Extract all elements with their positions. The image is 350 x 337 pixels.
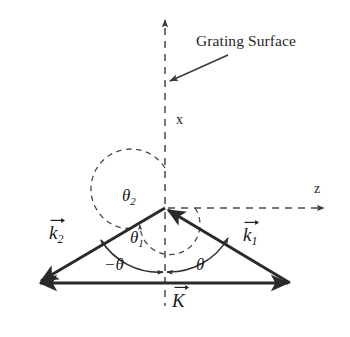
vector-k1-subscript: 1 bbox=[251, 234, 257, 248]
vector-k1 bbox=[168, 210, 290, 283]
axis-x-label: x bbox=[176, 113, 183, 127]
angle-theta1-label: θ1 bbox=[130, 228, 144, 248]
vector-k1-label: k1 bbox=[243, 224, 257, 246]
vector-K-symbol: K bbox=[172, 290, 185, 311]
axis-z-label: z bbox=[314, 182, 320, 196]
angle-arc-theta1 bbox=[140, 208, 200, 255]
vector-k2-label: k2 bbox=[49, 222, 63, 244]
angle-theta-positive-label: θ bbox=[196, 255, 204, 275]
figure-canvas bbox=[0, 0, 350, 337]
vector-k2-subscript: 2 bbox=[57, 232, 63, 246]
grating-surface-pointer-arrow bbox=[170, 55, 228, 81]
angle-theta2-subscript: 2 bbox=[130, 195, 136, 207]
grating-vector-diagram: Grating Surface x z k2 k1 K bbox=[0, 0, 350, 337]
vector-K-label: K bbox=[172, 290, 185, 312]
angle-theta1-subscript: 1 bbox=[138, 237, 144, 249]
angle-theta2-label: θ2 bbox=[122, 186, 136, 206]
grating-surface-label: Grating Surface bbox=[196, 33, 296, 49]
angle-theta-negative-label: −θ bbox=[104, 255, 124, 275]
